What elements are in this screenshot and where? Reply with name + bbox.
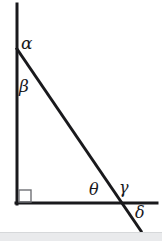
geometry-figure: α β θ γ δ — [0, 0, 162, 241]
bottom-divider-band — [0, 232, 162, 241]
angle-label-beta: β — [19, 78, 29, 95]
angle-label-theta: θ — [89, 182, 99, 198]
angle-label-delta: δ — [135, 205, 145, 221]
angle-label-gamma: γ — [119, 180, 129, 196]
angle-label-alpha: α — [21, 35, 32, 52]
right-angle-marker-icon — [19, 190, 31, 202]
